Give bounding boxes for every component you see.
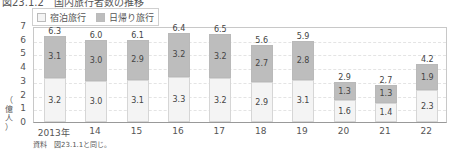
bar-total-label: 6.1 [123, 31, 153, 40]
legend-swatch-daytrip [96, 13, 105, 22]
bar-segment-overnight: 3.1 [127, 80, 149, 123]
x-tick-label: 19 [282, 126, 322, 136]
y-tick-label: 3 [14, 76, 26, 86]
bar-total-label: 4.2 [412, 55, 442, 64]
bar-segment-overnight: 3.0 [85, 81, 107, 122]
bar-segment-daytrip: 1.3 [375, 85, 397, 103]
bar-stack: 3.23.2 [209, 34, 231, 122]
x-tick-label: 16 [158, 126, 198, 136]
bar-segment-daytrip: 3.0 [85, 40, 107, 81]
y-tick-label: 1 [14, 103, 26, 113]
y-tick-label: 5 [14, 48, 26, 58]
bar-total-label: 6.3 [40, 27, 70, 36]
bar-total-label: 2.9 [330, 73, 360, 82]
y-tick-label: 6 [14, 35, 26, 45]
bar-stack: 2.31.9 [416, 64, 438, 122]
y-tick-label: 7 [14, 21, 26, 31]
bar-stack: 1.61.3 [334, 82, 356, 122]
x-tick-label: 2013年 [34, 126, 74, 139]
bar-segment-daytrip: 3.2 [168, 33, 190, 77]
bar-stack: 1.41.3 [375, 85, 397, 122]
x-tick-label: 14 [75, 126, 115, 136]
legend: 宿泊旅行 日帰り旅行 [32, 8, 159, 26]
bar-segment-daytrip: 2.8 [292, 41, 314, 79]
x-tick-label: 21 [365, 126, 405, 136]
bar-total-label: 6.5 [205, 25, 235, 34]
y-tick-label: 4 [14, 62, 26, 72]
bar-segment-overnight: 3.2 [209, 78, 231, 122]
bar-total-label: 2.7 [371, 76, 401, 85]
bar-segment-overnight: 1.4 [375, 103, 397, 122]
x-tick-label: 18 [241, 126, 281, 136]
bar-stack: 3.03.0 [85, 40, 107, 122]
bar-total-label: 6.4 [164, 24, 194, 33]
bar-stack: 2.92.7 [251, 45, 273, 122]
y-tick-label: 2 [14, 90, 26, 100]
bar-total-label: 5.6 [247, 36, 277, 45]
bar-stack: 3.23.1 [44, 36, 66, 122]
legend-item-overnight: 宿泊旅行 [37, 11, 86, 24]
plot-area: 3.23.16.33.03.06.03.12.96.13.33.26.43.23… [33, 27, 447, 123]
x-tick-label: 22 [406, 126, 446, 136]
legend-label-daytrip: 日帰り旅行 [109, 11, 154, 24]
bar-segment-overnight: 2.9 [251, 82, 273, 122]
x-tick-label: 15 [117, 126, 157, 136]
bar-total-label: 5.9 [288, 32, 318, 41]
bar-stack: 3.33.2 [168, 33, 190, 122]
y-axis-label: （億人） [4, 96, 14, 132]
bar-stack: 3.12.8 [292, 41, 314, 122]
source-note: 資料 図23.1.1と同じ。 [33, 139, 111, 149]
bar-segment-daytrip: 3.1 [44, 36, 66, 79]
y-tick-label: 0 [14, 117, 26, 127]
bar-segment-daytrip: 3.2 [209, 34, 231, 78]
bar-segment-overnight: 3.1 [292, 80, 314, 123]
legend-item-daytrip: 日帰り旅行 [96, 11, 154, 24]
bar-segment-daytrip: 2.7 [251, 45, 273, 82]
bar-stack: 3.12.9 [127, 40, 149, 122]
bar-segment-daytrip: 1.9 [416, 64, 438, 90]
bar-segment-daytrip: 2.9 [127, 40, 149, 80]
bar-segment-overnight: 3.2 [44, 78, 66, 122]
bar-total-label: 6.0 [81, 31, 111, 40]
bar-segment-overnight: 2.3 [416, 90, 438, 122]
x-tick-label: 17 [199, 126, 239, 136]
legend-swatch-overnight [37, 13, 46, 22]
bar-segment-overnight: 1.6 [334, 100, 356, 122]
x-tick-label: 20 [324, 126, 364, 136]
bar-segment-overnight: 3.3 [168, 77, 190, 122]
legend-label-overnight: 宿泊旅行 [50, 11, 86, 24]
bar-segment-daytrip: 1.3 [334, 82, 356, 100]
